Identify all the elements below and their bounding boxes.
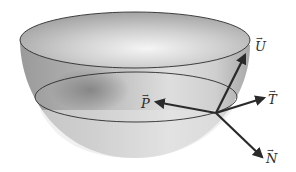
vector-arrow-icon: →: [142, 92, 149, 100]
label-P: → P: [141, 97, 150, 110]
vector-arrow-icon: →: [269, 88, 276, 96]
vector-arrow-icon: →: [256, 35, 263, 43]
label-N: → N: [266, 152, 277, 165]
hemisphere-diagram: → U → T → P → N: [0, 0, 296, 172]
bowl-rim: [20, 12, 250, 68]
label-T: → T: [268, 93, 277, 106]
label-U: → U: [255, 40, 266, 53]
bowl-lower-highlight: [40, 110, 232, 158]
vector-arrow-icon: →: [267, 147, 274, 155]
vector-N: [216, 113, 262, 157]
hemisphere-figure: [0, 0, 296, 172]
